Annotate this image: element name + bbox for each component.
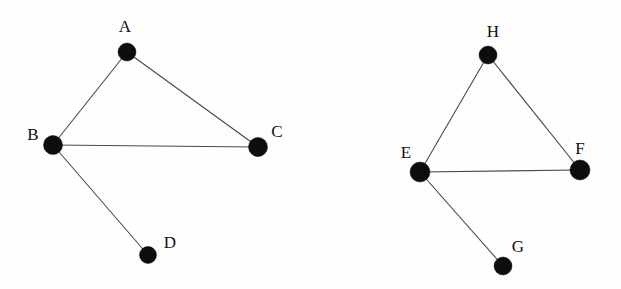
graph-edge-A-C: [127, 52, 258, 147]
vertex-label-D: D: [164, 234, 176, 251]
vertex-label-G: G: [512, 238, 524, 255]
graph-edge-A-B: [53, 52, 127, 145]
vertex-label-A: A: [119, 18, 131, 35]
vertex-label-B: B: [27, 126, 39, 143]
graph-edge-E-G: [420, 172, 503, 266]
right-graph-edges: [420, 55, 580, 266]
graph-node-B: [44, 136, 63, 155]
graph-figure-svg: [0, 0, 621, 289]
vertex-label-H: H: [487, 23, 499, 40]
graph-edge-H-E: [420, 55, 488, 172]
graph-node-H: [479, 46, 497, 64]
graph-node-D: [140, 247, 157, 264]
vertex-label-F: F: [575, 140, 585, 157]
nodes-layer: [44, 43, 591, 275]
graph-edge-E-F: [420, 170, 580, 172]
graph-edge-H-F: [488, 55, 580, 170]
figure-canvas: ABCDHEFG: [0, 0, 621, 289]
vertex-label-C: C: [271, 123, 283, 140]
right-graph-nodes: [410, 46, 590, 275]
left-graph-edges: [53, 52, 258, 255]
graph-edge-B-C: [53, 145, 258, 147]
left-graph-nodes: [44, 43, 268, 264]
graph-node-C: [249, 138, 268, 157]
graph-edge-B-D: [53, 145, 148, 255]
graph-node-G: [494, 257, 512, 275]
graph-node-A: [118, 43, 136, 61]
edges-layer: [53, 52, 580, 266]
graph-node-F: [570, 160, 590, 180]
vertex-label-E: E: [401, 144, 412, 161]
graph-node-E: [410, 162, 430, 182]
